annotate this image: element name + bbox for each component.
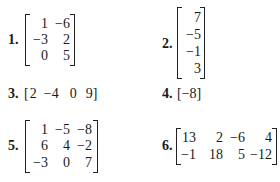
matrix-cell: 7 bbox=[72, 155, 92, 171]
vector-entry: 9 bbox=[77, 86, 93, 102]
vector-entry: −8 bbox=[182, 86, 197, 102]
exercise-label: 6. bbox=[162, 138, 173, 154]
matrix-cell: −1 bbox=[180, 147, 196, 163]
exercise-label: 5. bbox=[8, 138, 19, 154]
matrix-cell: −3 bbox=[30, 155, 48, 171]
matrix-cell: 13 bbox=[180, 130, 196, 146]
matrix-cell: −1 bbox=[181, 44, 201, 60]
matrix-2x4: 13 2 −6 4 −1 18 5 −12 bbox=[176, 128, 277, 165]
matrix-cell: 4 bbox=[50, 138, 70, 154]
matrix-3x3: 1 −5 −8 6 4 −2 −3 0 7 bbox=[25, 120, 98, 173]
bracket-close: ] bbox=[197, 86, 202, 102]
row-vector: [−8] bbox=[177, 86, 201, 102]
matrix-cell: 7 bbox=[181, 10, 201, 26]
matrix-3x2: 1 −6 −3 2 0 5 bbox=[25, 14, 75, 66]
vector-entry: −4 bbox=[37, 86, 59, 102]
matrix-cell: −2 bbox=[72, 138, 92, 154]
matrix-cell: −8 bbox=[72, 122, 92, 138]
matrix-cell: 4 bbox=[245, 130, 272, 146]
column-vector: 7 −5 −1 3 bbox=[177, 7, 205, 79]
matrix-cell: 5 bbox=[223, 147, 245, 163]
exercise-label: 1. bbox=[8, 32, 19, 48]
matrix-cell: −5 bbox=[181, 27, 201, 43]
vector-entry: 0 bbox=[59, 86, 77, 102]
exercise-label: 3. bbox=[8, 86, 19, 102]
matrix-cell: −6 bbox=[50, 16, 70, 32]
matrix-cell: −6 bbox=[223, 130, 245, 146]
matrix-cell: 0 bbox=[50, 155, 70, 171]
matrix-cell: −3 bbox=[30, 32, 48, 48]
matrix-cell: 2 bbox=[199, 130, 223, 146]
matrix-cell: 3 bbox=[181, 61, 201, 77]
matrix-cell: 5 bbox=[50, 48, 70, 64]
matrix-cell: −5 bbox=[50, 122, 70, 138]
matrix-cell: 18 bbox=[199, 147, 223, 163]
matrix-cell: 0 bbox=[30, 48, 48, 64]
vector-entry: 2 bbox=[29, 86, 37, 102]
matrix-cell: −12 bbox=[245, 147, 272, 163]
exercise-label: 4. bbox=[162, 86, 173, 102]
matrix-cell: 1 bbox=[30, 122, 48, 138]
exercise-label: 2. bbox=[162, 36, 173, 52]
matrix-cell: 6 bbox=[30, 138, 48, 154]
matrix-cell: 2 bbox=[50, 32, 70, 48]
bracket-close: ] bbox=[93, 86, 98, 102]
row-vector: [2−409] bbox=[24, 86, 97, 102]
matrix-cell: 1 bbox=[30, 16, 48, 32]
